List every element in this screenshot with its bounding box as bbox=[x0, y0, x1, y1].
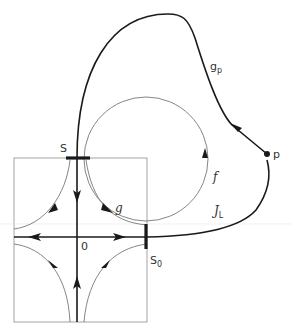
arrow-lower-right-icon bbox=[101, 260, 110, 268]
label-f: f bbox=[212, 170, 220, 184]
point-p bbox=[264, 151, 270, 157]
trajectory-upper-left bbox=[14, 160, 70, 229]
trajectory-lower-right bbox=[84, 244, 147, 322]
curve-gp bbox=[77, 14, 267, 158]
label-gp: gp bbox=[210, 60, 222, 75]
phase-portrait-diagram: S S0 0 g gp f JL p bbox=[0, 0, 292, 325]
label-S: S bbox=[60, 142, 67, 155]
label-p: p bbox=[273, 148, 280, 161]
curve-gp-arrow-icon bbox=[230, 123, 242, 132]
arrow-lower-left-icon bbox=[48, 260, 58, 268]
label-JL: JL bbox=[211, 204, 224, 220]
label-g: g bbox=[115, 201, 123, 215]
label-S0: S0 bbox=[150, 254, 162, 269]
diagram-svg: S S0 0 g gp f JL p bbox=[0, 0, 292, 325]
label-origin: 0 bbox=[81, 240, 88, 253]
orbit-f bbox=[84, 97, 208, 221]
curve-JL bbox=[147, 160, 269, 237]
arrow-upper-right-icon bbox=[101, 203, 113, 213]
trajectory-upper-right-g bbox=[86, 160, 147, 225]
trajectory-lower-left bbox=[14, 244, 70, 322]
